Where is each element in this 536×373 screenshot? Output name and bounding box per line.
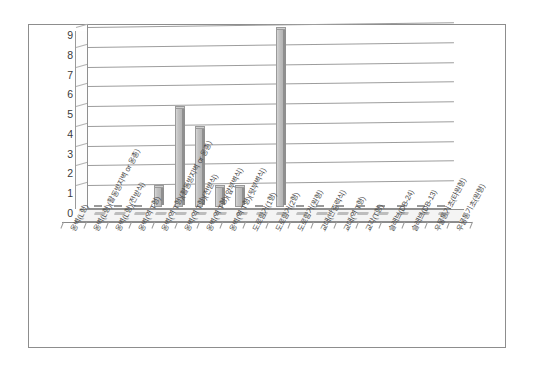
bar-top — [175, 106, 185, 109]
chart-frame: 9876543210 옹벽(L형)옹벽(L형)(활동방지벽 or 옹총)옹벽(L… — [28, 24, 506, 348]
y-tick-label: 1 — [67, 188, 73, 198]
plot-area: 9876543210 옹벽(L형)옹벽(L형)(활동방지벽 or 옹총)옹벽(L… — [29, 25, 507, 349]
side-wall-rule — [76, 162, 88, 166]
side-wall-rule — [76, 43, 88, 47]
chart-screenshot: 9876543210 옹벽(L형)옹벽(L형)(활동방지벽 or 옹총)옹벽(L… — [0, 0, 536, 373]
bar — [276, 29, 286, 207]
y-axis-labels: 9876543210 — [51, 35, 73, 205]
bar-top — [215, 185, 225, 188]
y-tick-label: 0 — [67, 208, 73, 218]
y-tick-label: 2 — [67, 168, 73, 178]
bar-face — [296, 205, 304, 207]
floor-tick — [154, 212, 166, 215]
side-wall-rule — [76, 103, 88, 107]
side-wall-rule — [76, 123, 88, 127]
bar — [114, 205, 124, 207]
bar — [296, 205, 306, 207]
y-tick-label: 5 — [67, 109, 73, 119]
floor-tick — [336, 212, 348, 215]
bar-face — [114, 205, 122, 207]
bar-side — [283, 27, 286, 205]
y-tick-label: 4 — [67, 129, 73, 139]
bar-top — [276, 27, 286, 30]
bar-top — [154, 185, 164, 188]
bar-face — [94, 205, 102, 207]
y-tick-label: 7 — [67, 70, 73, 80]
x-axis-category-labels: 옹벽(L형)옹벽(L형)(활동방지벽 or 옹총)옹벽(L형)(전받식)옹벽(역… — [29, 223, 507, 349]
y-tick-label: 9 — [67, 30, 73, 40]
side-wall-rule — [76, 142, 88, 146]
y-tick-label: 3 — [67, 149, 73, 159]
side-wall-rule — [76, 83, 88, 87]
bar-top — [195, 126, 205, 129]
side-wall-rule — [76, 24, 88, 28]
side-wall-rule — [76, 182, 88, 186]
side-wall-rule — [76, 63, 88, 67]
y-tick-label: 6 — [67, 89, 73, 99]
y-tick-label: 8 — [67, 50, 73, 60]
